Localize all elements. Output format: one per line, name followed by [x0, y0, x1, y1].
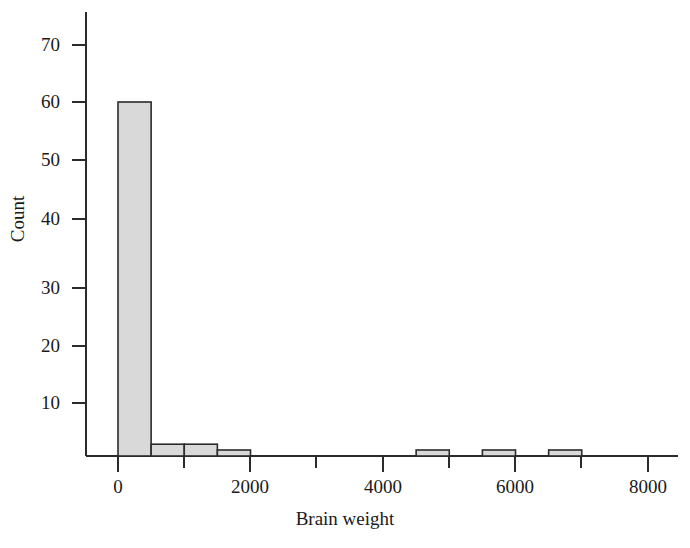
bar-bin-500-1000	[151, 444, 184, 456]
bar-bin-6500-7000	[549, 450, 582, 456]
histogram-bars	[118, 102, 582, 456]
bar-bin-1500-2000	[217, 450, 250, 456]
y-tick-label-60: 60	[14, 91, 60, 113]
x-axis-ticks	[118, 456, 648, 472]
x-axis-title: Brain weight	[0, 508, 690, 530]
y-tick-label-20: 20	[14, 335, 60, 357]
y-tick-label-30: 30	[14, 277, 60, 299]
bar-bin-1000-1500	[184, 444, 217, 456]
y-tick-label-70: 70	[14, 34, 60, 56]
bar-bin-5500-6000	[482, 450, 515, 456]
y-tick-label-10: 10	[14, 392, 60, 414]
x-tick-label-6000: 6000	[475, 476, 555, 498]
x-tick-label-8000: 8000	[608, 476, 688, 498]
y-tick-label-50: 50	[14, 149, 60, 171]
histogram-chart: 70 60 50 40 30 20 10 0 2000 4000 6000 80…	[0, 0, 690, 548]
x-tick-label-2000: 2000	[210, 476, 290, 498]
bar-bin-4500-5000	[416, 450, 449, 456]
y-axis-ticks	[72, 45, 86, 403]
bar-bin-0-500	[118, 102, 151, 456]
chart-canvas	[0, 0, 690, 548]
y-axis-title: Count	[7, 179, 29, 259]
x-tick-label-0: 0	[78, 476, 158, 498]
x-tick-label-4000: 4000	[343, 476, 423, 498]
